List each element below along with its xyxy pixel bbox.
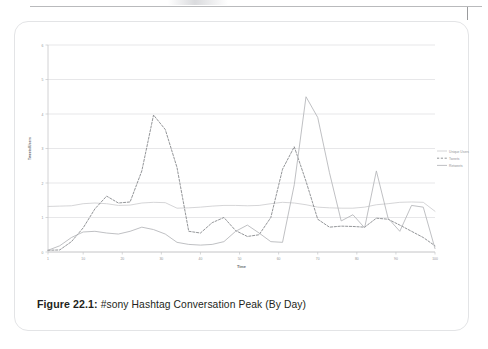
chart-gridlines: [48, 45, 435, 252]
y-tick-label: 1: [42, 216, 44, 220]
chart-legend: Unique UsersTweetsRetweets: [437, 150, 469, 168]
y-tick-label: 4: [42, 113, 44, 117]
x-axis-title: Time: [237, 264, 247, 269]
figure-caption-label: Figure 22.1:: [37, 298, 98, 310]
y-tick-label: 5: [42, 78, 44, 82]
legend-label: Retweets: [449, 164, 463, 168]
page-header-rule: [30, 6, 482, 7]
page-header-rule-tick: [467, 7, 468, 20]
chart-series-group: [48, 97, 435, 251]
x-tick-label: 100: [432, 257, 438, 261]
x-tick-label: 20: [120, 257, 124, 261]
figure-caption-text: #sony Hashtag Conversation Peak (By Day): [98, 299, 306, 310]
y-tick-label: 3: [42, 147, 44, 151]
legend-label: Unique Users: [449, 150, 469, 154]
y-tick-label: 6: [42, 44, 44, 48]
series-line: [48, 202, 435, 211]
x-tick-label: 60: [277, 257, 281, 261]
y-tick-label: 2: [42, 182, 44, 186]
x-tick-label: 80: [355, 257, 359, 261]
x-tick-label: 30: [159, 257, 163, 261]
x-tick-label: 40: [199, 257, 203, 261]
document-page: 01234561102030405060708090100TimeTweets/…: [0, 0, 488, 349]
x-tick-label: 90: [394, 257, 398, 261]
y-axis-title: Tweets/Users: [28, 137, 32, 160]
x-tick-label: 10: [81, 257, 85, 261]
legend-label: Tweets: [449, 157, 460, 161]
y-axis-ticks: 0123456: [42, 44, 48, 255]
figure-container: 01234561102030405060708090100TimeTweets/…: [14, 21, 469, 331]
x-tick-label: 70: [316, 257, 320, 261]
figure-caption: Figure 22.1: #sony Hashtag Conversation …: [37, 298, 447, 311]
x-tick-label: 50: [238, 257, 242, 261]
line-chart: 01234561102030405060708090100TimeTweets/…: [15, 22, 470, 284]
x-axis-ticks: 1102030405060708090100: [47, 252, 438, 261]
y-tick-label: 0: [42, 251, 44, 255]
x-tick-label: 1: [47, 257, 49, 261]
page-header-smudge: [168, 0, 228, 5]
chart-figure: 01234561102030405060708090100TimeTweets/…: [15, 22, 470, 284]
series-line: [48, 97, 435, 251]
